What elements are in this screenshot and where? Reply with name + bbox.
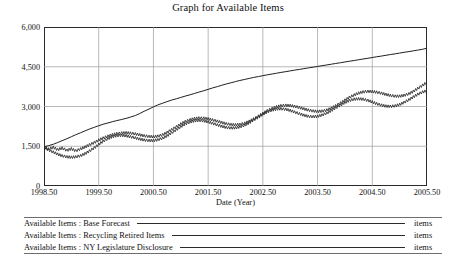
legend-unit: items xyxy=(405,231,442,240)
page-title: Graph for Available Items xyxy=(0,2,456,13)
y-axis-tick-label: 1,500 xyxy=(0,142,40,151)
legend-item-ny-legislature-disclosure[interactable]: Available Items : NY Legislature Disclos… xyxy=(24,241,442,253)
legend: Available Items : Base Forecast items Av… xyxy=(24,217,442,253)
x-axis-title: Date (Year) xyxy=(44,198,427,207)
plot-area xyxy=(44,27,427,186)
x-axis-tick-label: 1999.50 xyxy=(85,188,112,197)
series-line xyxy=(44,82,427,151)
series-canvas xyxy=(44,27,427,186)
x-axis-tick-label: 2004.50 xyxy=(359,188,386,197)
x-axis-tick-label: 2002.50 xyxy=(250,188,277,197)
y-axis-tick-label: 6,000 xyxy=(0,23,40,32)
legend-item-base-forecast[interactable]: Available Items : Base Forecast items xyxy=(24,217,442,229)
y-axis-tick-label: 4,500 xyxy=(0,62,40,71)
x-axis-tick-label: 2003.50 xyxy=(304,188,331,197)
y-axis-tick-label: 3,000 xyxy=(0,102,40,111)
legend-item-recycling-retired-items[interactable]: Available Items : Recycling Retired Item… xyxy=(24,229,442,241)
series-line xyxy=(44,48,427,147)
x-axis-tick-label: 1998.50 xyxy=(31,188,58,197)
x-axis-tick-label: 2000.50 xyxy=(140,188,167,197)
legend-bottom-divider xyxy=(24,253,442,254)
legend-unit: items xyxy=(405,219,442,228)
legend-label: Available Items : Base Forecast xyxy=(24,219,137,228)
legend-line-swatch xyxy=(172,235,405,236)
legend-label: Available Items : NY Legislature Disclos… xyxy=(24,243,180,252)
legend-unit: items xyxy=(405,243,442,252)
graph-panel: Graph for Available Items 01,5003,0004,5… xyxy=(0,0,456,265)
x-axis-tick-label: 2005.50 xyxy=(414,188,441,197)
legend-label: Available Items : Recycling Retired Item… xyxy=(24,231,172,240)
legend-line-swatch xyxy=(180,247,405,248)
y-axis-tick-labels: 01,5003,0004,5006,000 xyxy=(0,27,40,186)
legend-line-swatch xyxy=(137,223,405,224)
x-axis-tick-label: 2001.50 xyxy=(195,188,222,197)
